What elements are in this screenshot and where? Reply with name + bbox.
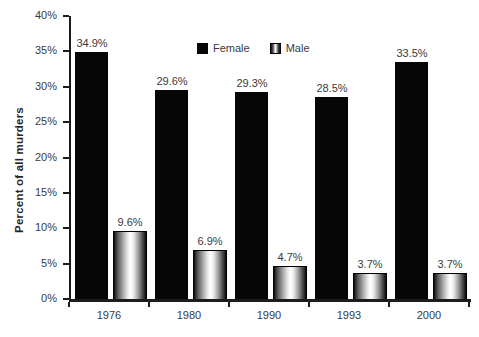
y-axis-tick (63, 15, 69, 17)
bar-male-2000 (433, 273, 467, 299)
y-tick-label: 15% (19, 186, 57, 198)
bar-label-female-1976: 34.9% (62, 37, 122, 49)
bar-label-female-1990: 29.3% (222, 77, 282, 89)
legend-swatch-male-icon (270, 43, 281, 54)
x-tick-label: 1980 (149, 309, 229, 321)
plot-area: Female Male 34.9%9.6%29.6%6.9%29.3%4.7%2… (69, 16, 471, 302)
y-axis-tick (63, 157, 69, 159)
x-tick-label: 1990 (229, 309, 309, 321)
y-tick-label: 5% (19, 257, 57, 269)
x-axis-tick (148, 302, 150, 307)
legend-label-female: Female (213, 42, 250, 54)
x-tick-label: 1976 (69, 309, 149, 321)
bar-female-1980 (155, 90, 188, 299)
x-axis-tick (468, 302, 470, 307)
x-axis-tick (228, 302, 230, 307)
y-tick-label: 0% (19, 292, 57, 304)
y-axis-tick (63, 192, 69, 194)
y-tick-label: 30% (19, 80, 57, 92)
y-axis-tick (63, 263, 69, 265)
bar-female-1976 (75, 52, 108, 299)
bar-label-male-1976: 9.6% (100, 216, 160, 228)
legend: Female Male (197, 42, 310, 54)
bar-label-female-2000: 33.5% (382, 47, 442, 59)
bar-female-1990 (235, 92, 268, 299)
bar-label-male-1980: 6.9% (180, 235, 240, 247)
x-axis-tick (68, 302, 70, 307)
y-tick-label: 20% (19, 151, 57, 163)
bar-label-male-2000: 3.7% (420, 258, 479, 270)
y-tick-label: 40% (19, 9, 57, 21)
bar-label-female-1993: 28.5% (302, 82, 362, 94)
x-axis-tick (308, 302, 310, 307)
y-tick-label: 25% (19, 115, 57, 127)
bar-male-1980 (193, 250, 227, 299)
y-tick-label: 35% (19, 44, 57, 56)
bar-male-1990 (273, 266, 307, 299)
x-axis-tick (388, 302, 390, 307)
legend-item-female: Female (197, 42, 250, 54)
y-axis-tick (63, 298, 69, 300)
bar-label-female-1980: 29.6% (142, 75, 202, 87)
y-axis-tick (63, 121, 69, 123)
bar-male-1993 (353, 273, 387, 299)
bar-label-male-1990: 4.7% (260, 251, 320, 263)
x-tick-label: 2000 (389, 309, 469, 321)
bar-label-male-1993: 3.7% (340, 258, 400, 270)
y-axis-tick (63, 227, 69, 229)
y-tick-label: 10% (19, 221, 57, 233)
legend-swatch-female-icon (197, 43, 208, 54)
x-tick-label: 1993 (309, 309, 389, 321)
murders-percent-bar-chart: Percent of all murders Female Male 34.9%… (0, 0, 479, 337)
legend-item-male: Male (270, 42, 310, 54)
legend-label-male: Male (286, 42, 310, 54)
y-axis-tick (63, 50, 69, 52)
bar-male-1976 (113, 231, 147, 299)
y-axis-tick (63, 86, 69, 88)
